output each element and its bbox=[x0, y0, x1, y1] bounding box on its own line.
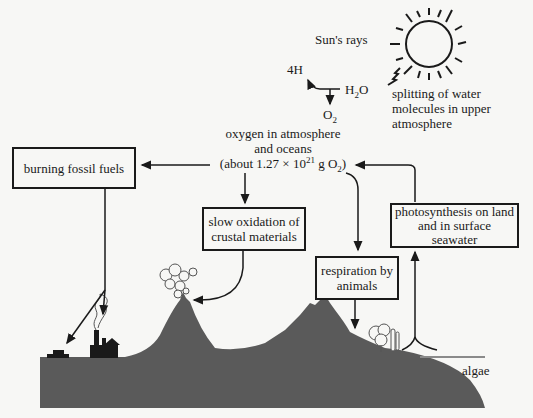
wavy-ray-icon bbox=[388, 68, 400, 85]
arrow-to-volcano bbox=[194, 250, 243, 300]
respiration-box: respiration by animals bbox=[315, 256, 399, 300]
slow-oxidation-box: slow oxidation of crustal materials bbox=[202, 207, 306, 251]
splitting-label: splitting of water molecules in upper at… bbox=[392, 86, 491, 131]
hydrogen-label: 4H bbox=[287, 62, 303, 77]
arrow-to-car bbox=[67, 290, 105, 343]
burning-fossil-fuels-box: burning fossil fuels bbox=[12, 147, 136, 189]
oxygen-reservoir-label: oxygen in atmosphere and oceans (about 1… bbox=[210, 126, 356, 171]
oxygen-product-label: O2 bbox=[323, 107, 337, 122]
arrow-from-photosynthesis bbox=[356, 165, 415, 202]
arrow-to-respiration bbox=[346, 173, 358, 250]
sun-rays-label: Sun's rays bbox=[315, 32, 368, 47]
water-label: H2O bbox=[345, 82, 368, 97]
h2o-to-4h-arrow bbox=[308, 80, 340, 89]
sun-icon bbox=[390, 8, 466, 80]
volcano-smoke-icon bbox=[160, 264, 197, 298]
algae-label: algae bbox=[462, 363, 489, 378]
photosynthesis-box: photosynthesis on land and in surface se… bbox=[390, 203, 519, 248]
algae-fork bbox=[402, 337, 437, 350]
car-icon bbox=[47, 350, 69, 358]
